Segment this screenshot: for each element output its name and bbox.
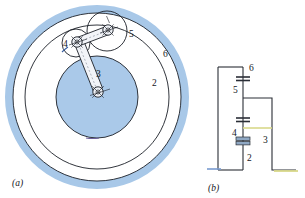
label-link-5: 5 [129,29,134,39]
label-link-2: 2 [152,78,157,88]
figure-container: 2 3 4 5 6 (a) [0,0,305,198]
label-link-6: 6 [163,49,168,59]
label-node-4: 4 [232,128,237,138]
caption-a: (a) [12,178,23,189]
joint-5-stem [107,16,110,23]
panel-b-group: 6 5 4 3 2 (b) [207,63,298,194]
label-link-4: 4 [63,39,68,49]
label-link-3: 3 [96,69,101,79]
contact-mark-lower [86,138,99,139]
label-node-6: 6 [249,63,254,73]
mechanism-figure: 2 3 4 5 6 (a) [0,0,305,198]
caption-b: (b) [208,183,219,194]
label-node-2: 2 [247,153,252,163]
label-node-3: 3 [263,135,268,145]
joint-4-block-bottom [236,142,250,145]
label-node-5: 5 [233,85,238,95]
panel-a-group: 2 3 4 5 6 (a) [9,9,185,189]
joint-4-block-top [236,137,250,140]
